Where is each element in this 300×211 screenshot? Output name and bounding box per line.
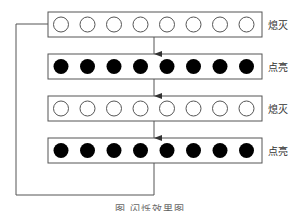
led-on-icon [160,59,175,74]
led-on-icon [186,143,201,158]
led-row-on [48,138,262,163]
led-off-icon [160,17,175,32]
led-off-icon [107,17,122,32]
led-off-icon [186,101,201,116]
led-off-icon [80,101,95,116]
led-off-icon [80,17,95,32]
led-on-icon [80,59,95,74]
figure-caption: 图 闪烁效果图 [0,201,300,211]
led-on-icon [186,59,201,74]
row-state-label: 熄灭 [268,101,288,116]
led-on-icon [213,59,228,74]
led-on-icon [54,143,69,158]
row-state-label: 点亮 [268,143,288,158]
led-row-off [48,96,262,121]
led-row-on [48,54,262,79]
led-off-icon [133,101,148,116]
led-off-icon [239,101,254,116]
led-off-icon [54,17,69,32]
led-on-icon [107,59,122,74]
led-row-off [48,12,262,37]
led-on-icon [213,143,228,158]
led-on-icon [160,143,175,158]
row-state-label: 熄灭 [268,17,288,32]
led-off-icon [54,101,69,116]
led-on-icon [80,143,95,158]
led-off-icon [213,17,228,32]
led-on-icon [54,59,69,74]
led-on-icon [133,59,148,74]
blink-diagram [0,0,300,211]
led-off-icon [213,101,228,116]
row-state-label: 点亮 [268,59,288,74]
led-on-icon [239,143,254,158]
led-off-icon [160,101,175,116]
led-off-icon [133,17,148,32]
led-off-icon [107,101,122,116]
led-off-icon [186,17,201,32]
led-on-icon [133,143,148,158]
led-on-icon [107,143,122,158]
led-on-icon [239,59,254,74]
led-off-icon [239,17,254,32]
